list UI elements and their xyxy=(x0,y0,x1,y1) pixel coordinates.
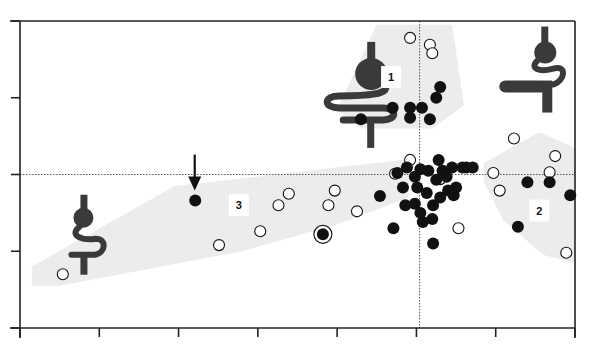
open-point xyxy=(488,167,499,178)
open-point xyxy=(283,188,294,199)
filled-point xyxy=(467,162,479,174)
open-point xyxy=(561,247,572,258)
filled-point xyxy=(387,222,399,234)
filled-point xyxy=(422,165,434,177)
open-point xyxy=(427,48,438,59)
open-point xyxy=(544,167,555,178)
region-2-area xyxy=(484,132,575,262)
filled-point xyxy=(189,195,201,207)
filled-point xyxy=(416,102,428,114)
filled-point xyxy=(456,162,468,174)
highlighted-point xyxy=(317,228,329,240)
outlet-shape xyxy=(542,81,552,113)
open-point xyxy=(405,32,416,43)
filled-point xyxy=(426,213,438,225)
open-point xyxy=(351,206,362,217)
filled-point xyxy=(387,102,399,114)
open-point xyxy=(508,133,519,144)
stomach-shape xyxy=(73,208,93,228)
open-point xyxy=(550,151,561,162)
filled-point xyxy=(564,189,576,201)
filled-point xyxy=(544,176,556,188)
filled-point xyxy=(355,113,367,125)
region-3-label: 3 xyxy=(236,199,242,211)
filled-point xyxy=(434,81,446,93)
open-point xyxy=(214,240,225,251)
filled-point xyxy=(404,112,416,124)
filled-point xyxy=(421,187,433,199)
filled-point xyxy=(448,189,460,201)
scatter-chart: 123 xyxy=(0,0,594,358)
open-point xyxy=(57,269,68,280)
open-point xyxy=(323,200,334,211)
filled-point xyxy=(397,182,409,194)
filled-point xyxy=(512,221,524,233)
filled-point xyxy=(427,238,439,250)
bypass-limb-shape xyxy=(499,81,547,93)
filled-point xyxy=(374,190,386,202)
open-point xyxy=(453,223,464,234)
region-2-label: 2 xyxy=(536,205,542,217)
filled-point xyxy=(401,162,413,174)
outlet-shape xyxy=(80,253,87,275)
region-1-label: 1 xyxy=(388,71,394,83)
filled-point xyxy=(521,176,533,188)
filled-point xyxy=(433,154,445,166)
filled-point xyxy=(446,162,458,174)
filled-point xyxy=(424,113,436,125)
open-point xyxy=(273,200,284,211)
stomach-intestine-bypass-icon xyxy=(499,27,563,113)
regions-layer xyxy=(32,25,575,286)
outlet-shape xyxy=(367,118,374,148)
filled-point xyxy=(430,92,442,104)
open-point xyxy=(255,226,266,237)
open-point xyxy=(329,185,340,196)
open-point xyxy=(494,185,505,196)
